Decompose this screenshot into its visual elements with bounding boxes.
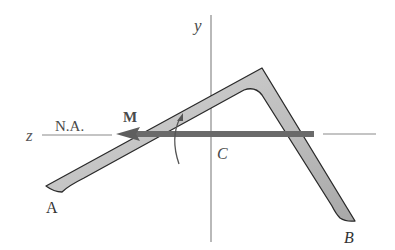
- moment-label: M: [123, 109, 137, 125]
- y-axis-label: y: [192, 16, 202, 35]
- end-b-label: B: [344, 229, 354, 246]
- z-axis-label: z: [25, 126, 33, 145]
- end-a-label: A: [46, 199, 58, 216]
- angle-cross-section: [46, 68, 355, 221]
- neutral-axis-label: N.A.: [55, 118, 84, 134]
- angle-section-diagram: y z N.A. M C A B: [0, 0, 395, 250]
- centroid-label: C: [217, 145, 228, 162]
- diagram-canvas: y z N.A. M C A B: [0, 0, 395, 250]
